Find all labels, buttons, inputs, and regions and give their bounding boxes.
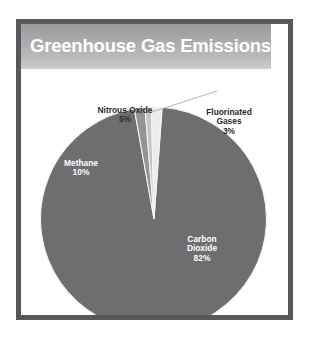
pie-label-nitrous-oxide: Nitrous Oxide 5% bbox=[79, 106, 171, 125]
pie-label-methane: Methane 10% bbox=[43, 159, 119, 178]
chart-card: Greenhouse Gas Emissions Nitrous Oxide 5… bbox=[16, 19, 293, 320]
pie-label-carbon-dioxide: Carbon Dioxide 82% bbox=[157, 235, 247, 263]
pie-chart-plot-area: Nitrous Oxide 5% Fluorinated Gases 3% Me… bbox=[21, 69, 288, 315]
page-title: Greenhouse Gas Emissions bbox=[30, 35, 271, 57]
chart-title-band: Greenhouse Gas Emissions bbox=[21, 24, 271, 69]
pie-label-fluorinated-gases: Fluorinated Gases 3% bbox=[187, 108, 271, 136]
